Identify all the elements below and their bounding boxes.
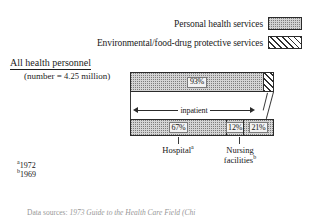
legend-item-environmental: Environmental/food-drug protective servi… [97, 36, 302, 49]
subtitle-suffix: million) [79, 71, 110, 81]
arrow-head-right-icon [250, 107, 255, 113]
funnel-line-left [130, 92, 131, 119]
leader-line-environmental [263, 93, 268, 111]
arrow-shaft-right [210, 110, 250, 111]
legend-swatch-environmental-icon [268, 36, 302, 49]
legend-label-environmental: Environmental/food-drug protective servi… [97, 38, 263, 48]
detail-bar-segment-other: 21% [243, 120, 273, 135]
nursing-footnote-marker: b [253, 154, 256, 160]
detail-bar: 67% 12% 21% [130, 119, 274, 136]
hospital-footnote-marker: a [191, 144, 194, 150]
main-bar-segment-personal: 93% [131, 73, 263, 91]
source-lead: Data sources: [27, 208, 68, 217]
subtitle-number: 4.25 [64, 71, 79, 81]
source-text: 1973 Guide to the Health Care Field (Chi [68, 208, 196, 217]
figure-canvas: Personal health services Environmental/f… [0, 0, 312, 217]
chart-subtitle: (number = 4.25 million) [24, 71, 110, 81]
main-bar: 93% [130, 72, 274, 92]
footnote-a-text: 1972 [20, 161, 36, 170]
source-note: Data sources: 1973 Guide to the Health C… [27, 208, 195, 217]
detail-bar-segment-nursing: 12% [226, 120, 243, 135]
footnote-b-text: 1969 [20, 170, 36, 179]
callout-label-nursing: Nursing facilitiesb [213, 145, 267, 165]
main-bar-label-personal: 93% [187, 77, 206, 88]
legend-swatch-personal-icon [268, 17, 302, 30]
footnote-b: b1969 [17, 170, 36, 179]
callout-tick-nursing [239, 137, 240, 144]
subtitle-prefix: (number = [24, 71, 64, 81]
callout-tick-hospital [178, 137, 179, 144]
legend-item-personal: Personal health services [174, 17, 302, 30]
main-bar-segment-environmental [263, 73, 273, 91]
inpatient-span-arrow: inpatient [133, 106, 255, 114]
chart-title-group: All health personnel [10, 57, 91, 68]
nursing-label-line1: Nursing [226, 145, 253, 155]
callout-label-hospital: Hospitala [152, 145, 204, 155]
inpatient-label: inpatient [178, 106, 209, 115]
detail-bar-label-hospital: 67% [169, 122, 188, 133]
nursing-label-line2: facilities [224, 155, 253, 165]
detail-bar-label-nursing: 12% [226, 122, 245, 133]
page-title: All health personnel [10, 57, 91, 70]
hospital-label: Hospital [162, 145, 191, 155]
detail-bar-segment-hospital: 67% [131, 120, 226, 135]
legend-label-personal: Personal health services [174, 19, 263, 29]
arrow-shaft-left [138, 110, 178, 111]
detail-bar-label-other: 21% [249, 122, 268, 133]
